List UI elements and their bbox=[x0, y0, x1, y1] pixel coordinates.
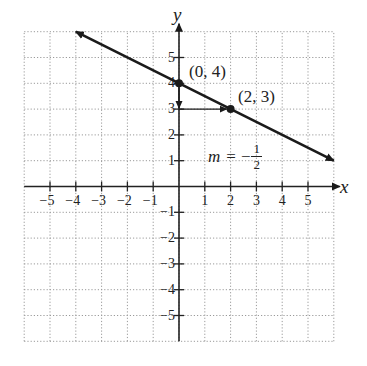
slope-arrows bbox=[179, 87, 227, 109]
slope-fraction: 1 2 bbox=[251, 142, 262, 171]
x-tick-label: 1 bbox=[201, 194, 208, 208]
y-tick-label: −3 bbox=[160, 257, 175, 271]
line-series bbox=[76, 32, 334, 161]
point-marker bbox=[175, 79, 183, 87]
x-tick-label: 3 bbox=[253, 194, 260, 208]
x-tick-label: 2 bbox=[227, 194, 234, 208]
x-tick-label: −5 bbox=[40, 194, 55, 208]
y-tick-label: 5 bbox=[168, 51, 175, 65]
x-tick-label: 5 bbox=[305, 194, 312, 208]
slope-equals: = bbox=[226, 148, 236, 165]
y-tick-label: 1 bbox=[168, 154, 175, 168]
slope-denominator: 2 bbox=[253, 157, 260, 171]
slope-sign: − bbox=[241, 148, 251, 165]
x-tick-label: −2 bbox=[117, 194, 132, 208]
y-tick-label: −5 bbox=[160, 309, 175, 323]
x-tick-label: 4 bbox=[279, 194, 286, 208]
slope-label: m = − 1 2 bbox=[208, 142, 262, 171]
axes bbox=[24, 24, 340, 342]
y-axis-label: y bbox=[173, 5, 181, 24]
y-tick-label: −2 bbox=[160, 231, 175, 245]
slope-m: m bbox=[208, 148, 220, 165]
point-marker bbox=[227, 105, 235, 113]
x-tick-label: −1 bbox=[143, 194, 158, 208]
y-tick-label: 4 bbox=[168, 76, 175, 90]
slope-numerator: 1 bbox=[251, 142, 262, 157]
data-line bbox=[76, 32, 334, 161]
y-tick-label: −1 bbox=[160, 205, 175, 219]
point-label-2-3: (2, 3) bbox=[238, 88, 275, 105]
x-axis-label: x bbox=[340, 177, 348, 196]
y-tick-label: −4 bbox=[160, 283, 175, 297]
y-tick-label: 3 bbox=[168, 102, 175, 116]
coordinate-plane bbox=[0, 0, 367, 366]
x-tick-label: −4 bbox=[65, 194, 80, 208]
y-tick-label: 2 bbox=[168, 128, 175, 142]
point-label-0-4: (0, 4) bbox=[189, 63, 226, 80]
x-tick-label: −3 bbox=[91, 194, 106, 208]
